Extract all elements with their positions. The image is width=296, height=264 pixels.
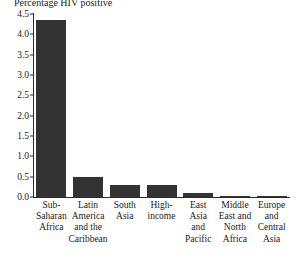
y-axis-tick-mark <box>30 14 33 15</box>
bar <box>220 196 250 197</box>
y-axis-tick-label: 0.5 <box>17 172 29 182</box>
x-axis-category-label-line: Central <box>250 222 293 233</box>
y-axis-tick-label: 3.0 <box>17 70 29 80</box>
y-axis-tick-mark <box>30 34 33 35</box>
y-axis-tick-labels: 0.00.51.01.52.02.53.03.54.04.5 <box>0 0 29 264</box>
x-axis-category-label-line: Europe <box>250 200 293 211</box>
bar <box>36 20 66 197</box>
y-axis-tick-mark <box>30 75 33 76</box>
bar-series <box>33 14 290 197</box>
y-axis-tick-mark <box>30 95 33 96</box>
bar <box>183 193 213 197</box>
y-axis-tick-label: 4.0 <box>17 29 29 39</box>
y-axis-tick-label: 2.0 <box>17 111 29 121</box>
y-axis-tick-label: 1.5 <box>17 131 29 141</box>
x-axis-line <box>33 197 290 198</box>
x-axis-category-label-line: Asia <box>250 234 293 245</box>
y-axis-tick-mark <box>30 54 33 55</box>
y-axis-tick-label: 4.5 <box>17 9 29 19</box>
x-axis-category-labels: Sub-SaharanAfricaLatinAmericaand theCari… <box>33 200 290 264</box>
hiv-prevalence-bar-chart: Percentage HIV positive 0.00.51.01.52.02… <box>0 0 296 264</box>
y-axis-tick-label: 3.5 <box>17 50 29 60</box>
y-axis-tick-mark <box>30 197 33 198</box>
y-axis-tick-mark <box>30 115 33 116</box>
y-axis-tick-label: 0.0 <box>17 192 29 202</box>
y-axis-tick-mark <box>30 136 33 137</box>
bar <box>73 177 103 197</box>
bar <box>257 196 287 197</box>
bar <box>147 185 177 197</box>
bar <box>110 185 140 197</box>
x-axis-category-label: EuropeandCentralAsia <box>250 200 293 245</box>
y-axis-tick-mark <box>30 156 33 157</box>
x-axis-category-label-line: and the <box>67 222 110 233</box>
y-axis-tick-mark <box>30 176 33 177</box>
y-axis-tick-label: 1.0 <box>17 151 29 161</box>
x-axis-category-label-line: and <box>250 211 293 222</box>
x-axis-category-label-line: Caribbean <box>67 234 110 245</box>
y-axis-tick-label: 2.5 <box>17 90 29 100</box>
